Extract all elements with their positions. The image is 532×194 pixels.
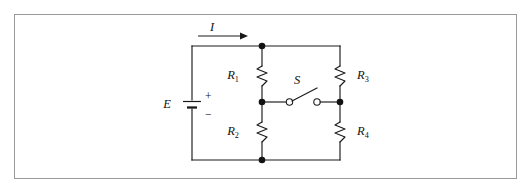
node-top-middle [259, 43, 266, 50]
label-battery-minus: − [205, 108, 212, 120]
label-switch: S [294, 73, 301, 87]
label-r2-sub: 2 [235, 131, 239, 140]
resistor-r2-body [257, 122, 267, 142]
node-mid-right [337, 99, 344, 106]
current-arrow-head [240, 33, 248, 40]
node-mid-left [259, 99, 266, 106]
label-r3-base: R [356, 68, 365, 82]
label-r4: R4 [356, 124, 369, 140]
circuit-schematic: I E + − R1 R2 R3 R4 S [0, 0, 532, 194]
label-battery-plus: + [205, 90, 212, 102]
label-r1-sub: 1 [235, 75, 239, 84]
label-emf: E [162, 97, 171, 111]
circuit-figure: I E + − R1 R2 R3 R4 S [0, 0, 532, 194]
resistor-r4-body [335, 122, 345, 142]
label-r4-sub: 4 [365, 131, 369, 140]
resistor-r1-body [257, 66, 267, 86]
label-r1: R1 [226, 68, 239, 84]
label-r4-base: R [356, 124, 365, 138]
label-r3-sub: 3 [365, 75, 369, 84]
label-current: I [209, 20, 215, 34]
switch-left-terminal[interactable] [286, 99, 292, 105]
switch-right-terminal[interactable] [314, 99, 320, 105]
label-r3: R3 [356, 68, 369, 84]
label-r2: R2 [226, 124, 239, 140]
node-bottom-middle [259, 157, 266, 164]
switch-lever[interactable] [292, 88, 317, 101]
resistor-r3-body [335, 66, 345, 86]
